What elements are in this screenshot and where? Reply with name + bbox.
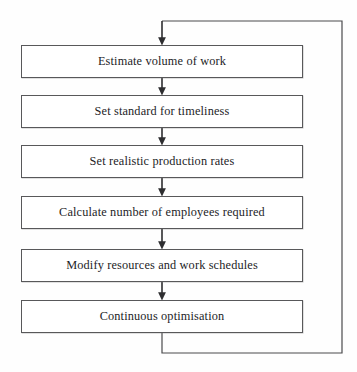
flowchart-diagram: Estimate volume of work Set standard for… — [0, 0, 357, 372]
process-box-modify-resources-and-work-schedules: Modify resources and work schedules — [21, 249, 303, 282]
process-box-set-standard-for-timeliness: Set standard for timeliness — [21, 95, 303, 128]
process-box-calculate-number-of-employees-required: Calculate number of employees required — [21, 196, 303, 229]
process-box-continuous-optimisation: Continuous optimisation — [21, 300, 303, 333]
process-box-label: Calculate number of employees required — [59, 206, 265, 218]
process-box-label: Modify resources and work schedules — [66, 259, 258, 271]
process-box-label: Set standard for timeliness — [95, 105, 230, 117]
process-box-label: Set realistic production rates — [90, 155, 235, 167]
process-box-label: Continuous optimisation — [100, 310, 225, 322]
process-box-estimate-volume-of-work: Estimate volume of work — [21, 45, 303, 78]
process-box-label: Estimate volume of work — [98, 55, 226, 67]
process-box-set-realistic-production-rates: Set realistic production rates — [21, 145, 303, 178]
